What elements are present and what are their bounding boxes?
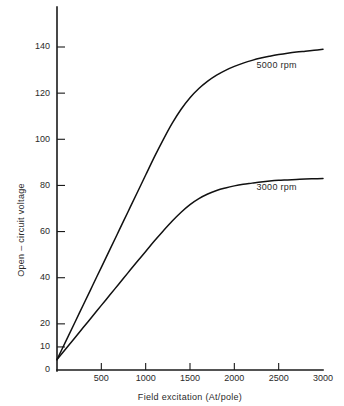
open-circuit-characteristic-chart: 01020406080100120140 5001000150020002500… [0,0,344,406]
x-tick-label: 1500 [180,373,200,383]
series-label-5000-rpm: 5000 rpm [257,60,297,70]
series-label-3000-rpm: 3000 rpm [257,182,297,192]
x-tick-label: 2500 [269,373,289,383]
x-tick-label: 500 [94,373,109,383]
y-tick-label: 120 [35,88,50,98]
y-tick-label: 20 [40,318,50,328]
x-tick-label: 2000 [224,373,244,383]
y-tick-label: 40 [40,272,50,282]
x-tick-label: 1000 [136,373,156,383]
y-tick-label: 80 [40,180,50,190]
chart-figure: 01020406080100120140 5001000150020002500… [0,0,344,406]
x-tick-label: 3000 [313,373,333,383]
y-tick-label: 100 [35,134,50,144]
y-tick-label: 60 [40,226,50,236]
y-tick-label: 140 [35,41,50,51]
y-axis-title: Open – circuit voltage [16,183,26,277]
y-tick-label: 10 [40,341,50,351]
y-tick-label: 0 [45,364,50,374]
x-axis-title: Field excitation (At/pole) [138,392,242,402]
